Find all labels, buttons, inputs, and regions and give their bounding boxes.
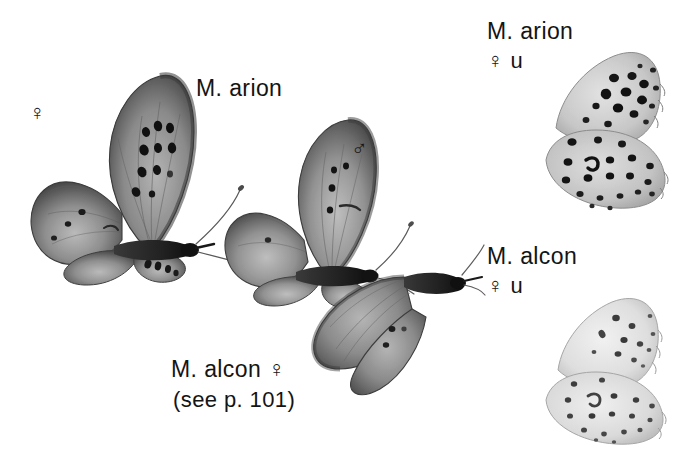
hindwing-left <box>225 213 308 287</box>
specimen-arion-female-underside <box>540 44 682 216</box>
label-alcon-underside-sex: ♀ u <box>487 273 523 299</box>
forewing-underside <box>556 52 665 143</box>
male-symbol-centre: ♂ <box>351 138 368 160</box>
label-alcon-upperside: M. alcon ♀ <box>171 356 286 383</box>
label-alcon-page-reference: (see p. 101) <box>173 387 295 413</box>
hindwing-underside <box>546 372 666 444</box>
hindwing-underside <box>546 130 668 210</box>
butterfly-plate: M. arion M. alcon ♀ (see p. 101) M. ario… <box>0 0 695 455</box>
specimen-alcon-female-upperside <box>300 243 485 393</box>
antennae <box>462 245 485 295</box>
body-thorax <box>114 240 214 260</box>
female-symbol-left: ♀ <box>29 102 46 124</box>
label-arion-underside-sex: ♀ u <box>487 48 523 74</box>
label-alcon-underside-name: M. alcon <box>487 243 577 270</box>
body-thorax <box>404 273 482 294</box>
label-arion-underside-name: M. arion <box>487 18 573 45</box>
specimen-alcon-female-underside <box>540 292 680 448</box>
label-arion-upperside: M. arion <box>196 75 282 102</box>
